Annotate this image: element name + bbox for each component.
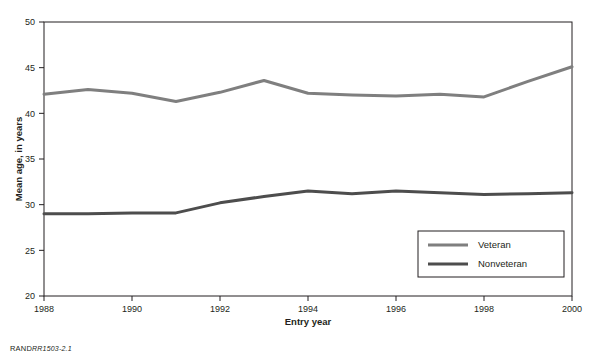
x-tick-label: 1992 — [210, 304, 230, 314]
x-tick-label: 1998 — [474, 304, 494, 314]
y-tick-label: 40 — [25, 109, 35, 119]
x-axis-ticks: 1988199019921994199619982000 — [34, 296, 582, 314]
legend-label-veteran: Veteran — [478, 239, 511, 250]
y-axis-ticks: 20253035404550 — [25, 17, 44, 301]
figure-container: 20253035404550 1988199019921994199619982… — [0, 0, 599, 363]
legend-box — [418, 231, 564, 277]
line-chart: 20253035404550 1988199019921994199619982… — [0, 0, 599, 363]
y-tick-label: 25 — [25, 246, 35, 256]
x-axis-title: Entry year — [285, 316, 332, 327]
y-tick-label: 45 — [25, 63, 35, 73]
x-tick-label: 2000 — [562, 304, 582, 314]
x-tick-label: 1988 — [34, 304, 54, 314]
x-tick-label: 1990 — [122, 304, 142, 314]
x-tick-label: 1996 — [386, 304, 406, 314]
y-tick-label: 35 — [25, 154, 35, 164]
y-axis-title: Mean age, in years — [13, 117, 24, 201]
source-note-prefix: RAND — [10, 344, 32, 353]
source-note-id: RR1503-2.1 — [32, 345, 72, 352]
y-tick-label: 20 — [25, 291, 35, 301]
legend: Veteran Nonveteran — [418, 231, 564, 277]
legend-label-nonveteran: Nonveteran — [478, 258, 527, 269]
x-tick-label: 1994 — [298, 304, 318, 314]
y-tick-label: 30 — [25, 200, 35, 210]
figure-source-note: RANDRR1503-2.1 — [10, 344, 72, 353]
y-tick-label: 50 — [25, 17, 35, 27]
